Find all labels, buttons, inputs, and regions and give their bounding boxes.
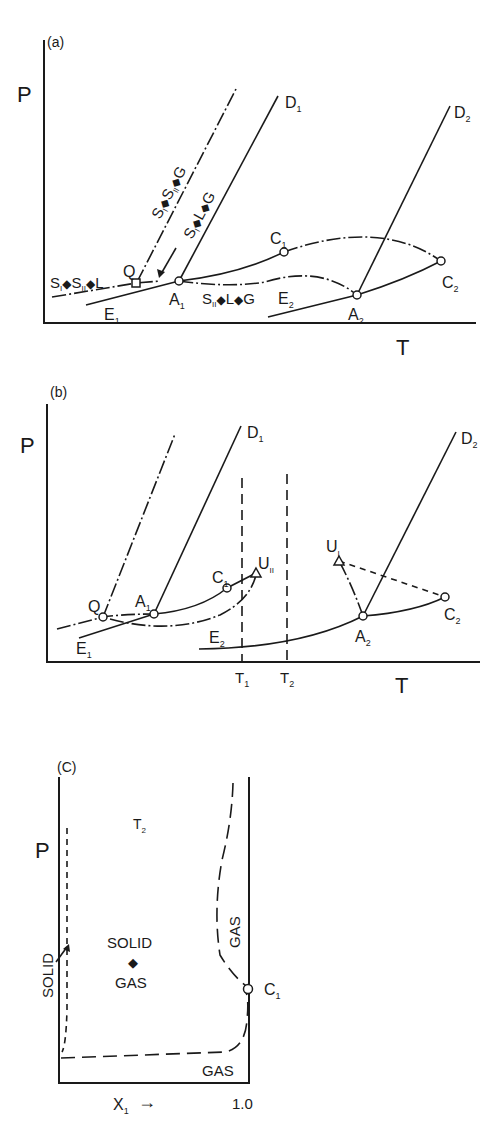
- panel-a-label-c2: C2: [442, 274, 459, 294]
- panel-c-curve-solidus: [62, 828, 67, 1052]
- panel-c-region-gas-right: GAS: [226, 916, 243, 948]
- panel-c-curve-gas: [217, 783, 246, 986]
- panel-b-label: (b): [50, 384, 67, 400]
- panel-b-label-d1: D1: [247, 424, 264, 444]
- panel-c-y-axis-label: P: [35, 838, 50, 863]
- panel-b-label-c1: C1: [212, 569, 229, 589]
- panel-b-label-e2: E2: [209, 629, 225, 649]
- panel-b-label-q: Q: [88, 598, 100, 615]
- panel-c-label: (C): [57, 759, 76, 775]
- panel-c-label-c1: C1: [264, 981, 281, 1001]
- panel-b-label-ui: UI: [326, 538, 340, 558]
- panel-b-label-a2: A2: [355, 628, 371, 648]
- panel-c-curve-bottom: [61, 992, 248, 1058]
- panel-b-y-axis-label: P: [20, 433, 35, 458]
- panel-b-tick-t1: T1: [235, 669, 249, 689]
- panel-c-region-gas-bottom: GAS: [202, 1062, 234, 1079]
- panel-b-label-d2: D2: [461, 430, 478, 450]
- panel-b-curve-e1: [79, 614, 154, 638]
- panel-c-region-gas: GAS: [115, 974, 147, 991]
- panel-b-x-axis-label: T: [395, 673, 408, 698]
- panel-a-curve-a1-d1: [179, 96, 278, 281]
- panel-c-isotherm-label: T2: [133, 816, 147, 835]
- panel-b-label-e1: E1: [76, 640, 92, 660]
- arrow-right-icon: →: [138, 1092, 156, 1112]
- panel-b: (b) P T T1 T2: [20, 384, 480, 698]
- panel-a-x-axis-label: T: [396, 335, 409, 360]
- panel-a-curve-a1-c1: [179, 252, 284, 281]
- panel-c: (C) P T2 C1 SOLID SOLID ◆ GAS GAS GAS X1…: [35, 759, 281, 1116]
- panel-a-label-c1: C1: [270, 230, 287, 250]
- panel-b-label-c2: C2: [444, 606, 461, 626]
- panel-a-arrow: [161, 248, 176, 274]
- panel-a-curve-a2-d2: [357, 106, 450, 295]
- panel-b-tick-t2: T2: [280, 669, 294, 689]
- panel-b-curve-a2-c2: [363, 597, 445, 616]
- panel-a-point-c2: [437, 257, 445, 265]
- panel-a-point-a2: [353, 291, 361, 299]
- panel-a-phase-s2-l-g: SII◆L◆G: [202, 290, 255, 309]
- panel-b-curve-q-u11: [110, 575, 256, 626]
- panel-a-phase-s1-s2-l: SI◆SII◆L: [50, 274, 104, 293]
- panel-b-point-a1: [150, 610, 158, 618]
- panel-a-label-a1: A1: [169, 291, 185, 311]
- panel-b-point-c2: [441, 593, 449, 601]
- panel-b-curve-a2-d2: [363, 432, 456, 616]
- phase-diagram-figure: (a) P T Q A1 C1 C2 A2: [0, 0, 500, 1146]
- panel-a-axes: [44, 40, 476, 323]
- panel-c-region-solid: SOLID: [107, 934, 152, 951]
- panel-a-curve-s1-s2-g: [137, 89, 236, 282]
- panel-a-y-axis-label: P: [17, 82, 32, 107]
- panel-a-point-a1: [175, 277, 183, 285]
- panel-c-region-solid-left: SOLID: [39, 953, 56, 998]
- panel-a-label-d1: D1: [285, 94, 302, 114]
- panel-a-label-d2: D2: [454, 104, 471, 124]
- panel-a-point-q: [132, 279, 140, 287]
- panel-c-point-c1: [244, 985, 253, 994]
- panel-b-curve-q-up: [103, 434, 175, 617]
- panel-a-phase-s1-s2-g: SI◆SII◆G: [148, 163, 191, 222]
- panel-b-point-a2: [359, 612, 367, 620]
- panel-b-label-a1: A1: [135, 593, 151, 613]
- panel-c-x-axis-label: X1: [113, 1096, 129, 1116]
- panel-c-frame: [59, 777, 249, 1083]
- panel-a-label: (a): [47, 34, 64, 50]
- panel-b-curve-a2-ui: [339, 561, 363, 616]
- panel-a-label-e2: E2: [278, 290, 294, 310]
- panel-c-x-max-label: 1.0: [232, 1095, 253, 1112]
- panel-b-curve-ui-c2: [339, 561, 445, 597]
- panel-a-curve-c1-c2: [284, 237, 441, 261]
- panel-a: (a) P T Q A1 C1 C2 A2: [17, 34, 476, 360]
- panel-b-label-u11: UII: [258, 555, 274, 575]
- diamond-icon: ◆: [128, 955, 138, 970]
- panel-a-label-q: Q: [123, 263, 135, 280]
